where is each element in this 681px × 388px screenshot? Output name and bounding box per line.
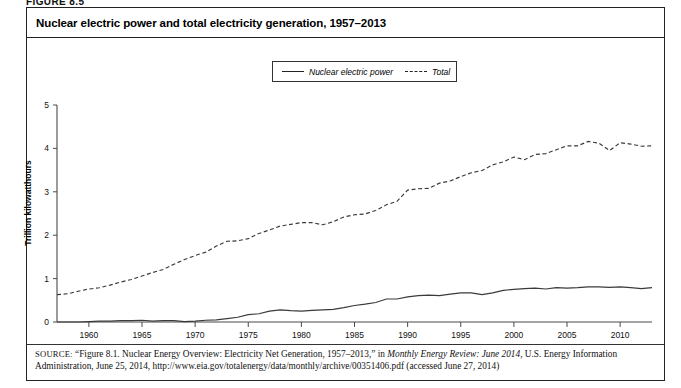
title-divider	[27, 37, 664, 38]
legend-swatch-dashed-icon	[405, 71, 427, 72]
source-publication-title: Monthly Energy Review: June 2014	[387, 349, 520, 359]
chart-legend: Nuclear electric power Total	[272, 61, 457, 82]
chart-title: Nuclear electric power and total electri…	[36, 17, 386, 29]
source-note: SOURCE: “Figure 8.1. Nuclear Energy Over…	[35, 349, 657, 372]
y-axis-title: Trillion kilowatthours	[23, 143, 33, 263]
source-text-before: “Figure 8.1. Nuclear Energy Overview: El…	[73, 349, 388, 359]
source-label: SOURCE:	[35, 349, 73, 359]
legend-label-total: Total	[432, 67, 450, 77]
figure-label: FIGURE 8.5	[26, 0, 84, 7]
legend-swatch-solid-icon	[282, 71, 304, 72]
legend-label-nuclear: Nuclear electric power	[309, 67, 393, 77]
legend-entry-total: Total	[405, 67, 450, 77]
legend-entry-nuclear: Nuclear electric power	[282, 67, 393, 77]
source-divider	[27, 344, 664, 345]
